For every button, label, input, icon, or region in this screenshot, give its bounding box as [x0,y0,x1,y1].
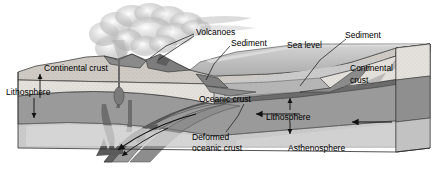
label-continental-crust-right-line2: crust [350,76,368,86]
block-right-side-face [396,44,430,152]
label-continental-crust-left: Continental crust [44,64,108,74]
label-oceanic-crust: Oceanic crust [199,95,251,105]
label-sea-level: Sea level [287,41,322,51]
label-sediment-left: Sediment [231,39,267,49]
label-lithosphere-left: Lithosphere [6,88,50,98]
label-deformed-line1: Deformed [192,133,229,143]
diagram-figure: Continental crust Lithosphere Volcanoes … [0,0,444,170]
label-lithosphere-center: Lithosphere [266,113,310,123]
label-volcanoes: Volcanoes [196,28,235,38]
label-asthenosphere: Asthenosphere [288,144,345,154]
label-sediment-right: Sediment [345,31,381,41]
label-deformed-line2: oceanic crust [192,144,242,154]
label-continental-crust-right-line1: Continental [350,64,393,74]
